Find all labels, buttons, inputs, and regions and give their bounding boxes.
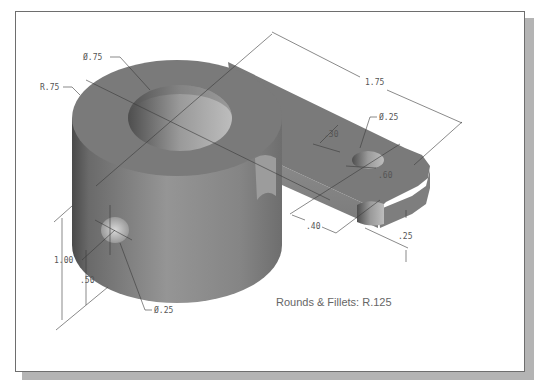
dim-arm-hole-diameter: Ø.25 (379, 112, 398, 122)
cylinder-boss (72, 60, 282, 303)
arm-hole (352, 151, 384, 169)
dim-height: 1.00 (54, 256, 73, 265)
dim-outer-radius: R.75 (40, 83, 59, 92)
dim-side-hole-height: .50 (80, 276, 95, 285)
dim-arm-hole-offset: .30 (324, 130, 339, 139)
dim-side-hole-diameter: Ø.25 (154, 305, 173, 315)
dim-bore-diameter: Ø.75 (83, 52, 102, 62)
isometric-part-drawing: Ø.75 R.75 1.75 Ø.25 .30 .60 .40 .25 1.00… (0, 0, 545, 391)
dim-arm-thickness: .25 (398, 232, 413, 241)
dim-arm-hole-position: .40 (306, 222, 321, 231)
rounds-fillets-note: Rounds & Fillets: R.125 (276, 296, 392, 308)
dim-overall-length: 1.75 (365, 78, 384, 87)
dim-arm-width: .60 (378, 171, 393, 180)
